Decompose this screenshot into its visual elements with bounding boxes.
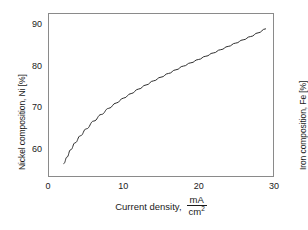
x-units-numerator: mA [188,195,206,205]
x-tick-label-0: 0 [36,181,60,191]
left-tick-label-70: 70 [22,102,42,112]
x-tick-label-30: 30 [262,181,286,191]
x-axis-units: mA cm2 [187,195,207,217]
left-tick-label-90: 90 [22,19,42,29]
chart-figure: Nickel composition, Ni [%] Iron composit… [0,0,308,230]
plot-area [48,13,274,177]
left-axis-title: Nickel composition, Ni [%] [17,74,27,170]
x-tick-label-20: 20 [187,181,211,191]
x-axis-title-text: Current density, [115,201,181,212]
x-tick-label-10: 10 [111,181,135,191]
x-axis-title: Current density, mA cm2 [48,195,274,217]
left-tick-label-80: 80 [22,61,42,71]
data-curve-svg [49,14,273,176]
left-tick-label-60: 60 [22,144,42,154]
x-units-denominator-base: cm [189,206,202,217]
ni-composition-curve [64,29,266,164]
x-units-denominator-exponent: 2 [201,205,205,212]
right-axis-title: Iron composition, Fe [%] [298,81,308,170]
x-units-denominator: cm2 [187,206,207,217]
